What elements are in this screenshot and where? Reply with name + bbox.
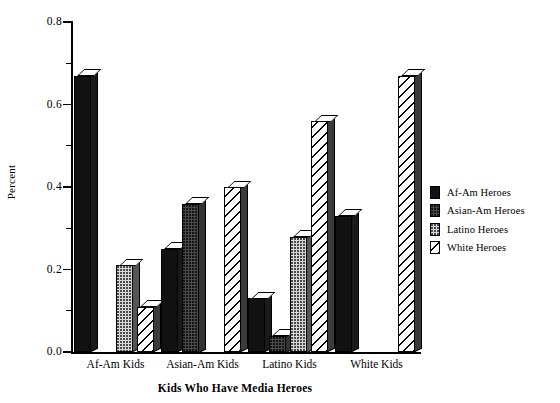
- bar-front-face: [137, 307, 154, 352]
- legend-item[interactable]: Latino Heroes: [430, 220, 525, 239]
- legend-label: Latino Heroes: [447, 224, 508, 235]
- plot-area: [72, 22, 420, 352]
- legend-label: Asian-Am Heroes: [447, 205, 525, 216]
- y-tick-minor: [66, 63, 72, 64]
- legend-swatch-hatch: [430, 241, 440, 254]
- legend-label: White Heroes: [447, 242, 506, 253]
- bar-front-face: [290, 237, 307, 353]
- legend-item[interactable]: Asian-Am Heroes: [430, 202, 525, 221]
- bar-group: [161, 22, 241, 352]
- chart-legend: Af-Am HeroesAsian-Am HeroesLatino Heroes…: [430, 183, 525, 257]
- x-axis-title: Kids Who Have Media Heroes: [0, 382, 470, 394]
- bar-hatch: [398, 76, 415, 352]
- bar-group: [74, 22, 154, 352]
- bar-side-face: [415, 72, 422, 352]
- y-tick-label: 0.0: [18, 346, 62, 358]
- bar-front-face: [269, 336, 286, 353]
- y-tick-label: 0.2: [18, 264, 62, 276]
- bar-front-face: [74, 76, 91, 352]
- bar-front-face: [398, 76, 415, 352]
- bar-front-face: [248, 298, 265, 352]
- bar-hatch: [224, 187, 241, 352]
- bar-hatch: [137, 307, 154, 352]
- bar-dots: [116, 265, 133, 352]
- legend-item[interactable]: Af-Am Heroes: [430, 183, 525, 202]
- bar-front-face: [224, 187, 241, 352]
- legend-swatch-dots: [430, 223, 440, 236]
- y-tick-major: [63, 269, 72, 270]
- y-tick-major: [63, 21, 72, 22]
- y-tick-label: 0.4: [18, 181, 62, 193]
- bar-group: [248, 22, 328, 352]
- bar-solid: [335, 216, 352, 352]
- bar-front-face: [161, 249, 178, 352]
- y-tick-major: [63, 186, 72, 187]
- bar-side-face: [154, 303, 161, 352]
- y-tick-major: [63, 104, 72, 105]
- bar-side-face: [199, 200, 206, 352]
- bar-front-face: [182, 204, 199, 353]
- bar-side-face: [352, 212, 359, 352]
- y-axis-labels: 0.00.20.40.60.8: [10, 0, 62, 403]
- legend-swatch-dense: [430, 204, 440, 217]
- y-tick-label: 0.6: [18, 99, 62, 111]
- bar-solid: [161, 249, 178, 352]
- legend-label: Af-Am Heroes: [447, 187, 511, 198]
- bar-dots: [290, 237, 307, 353]
- y-tick-major: [63, 351, 72, 352]
- bar-solid: [248, 298, 265, 352]
- bar-side-face: [91, 72, 98, 352]
- legend-swatch-solid: [430, 186, 440, 199]
- y-tick-minor: [66, 310, 72, 311]
- bar-front-face: [311, 121, 328, 352]
- bar-side-face: [241, 184, 248, 352]
- x-tick-label: White Kids: [315, 358, 438, 370]
- bar-front-face: [335, 216, 352, 352]
- bar-dense: [182, 204, 199, 353]
- bar-side-face: [328, 118, 335, 352]
- y-tick-label: 0.8: [18, 16, 62, 28]
- bar-chart: Percent 0.00.20.40.60.8 Af-Am KidsAsian-…: [0, 0, 560, 403]
- bar-hatch: [311, 121, 328, 352]
- bar-front-face: [116, 265, 133, 352]
- bar-group: [335, 22, 415, 352]
- x-axis-line: [71, 352, 421, 354]
- y-tick-minor: [66, 228, 72, 229]
- bar-solid: [74, 76, 91, 352]
- legend-item[interactable]: White Heroes: [430, 239, 525, 258]
- bar-dense: [269, 336, 286, 353]
- y-tick-minor: [66, 145, 72, 146]
